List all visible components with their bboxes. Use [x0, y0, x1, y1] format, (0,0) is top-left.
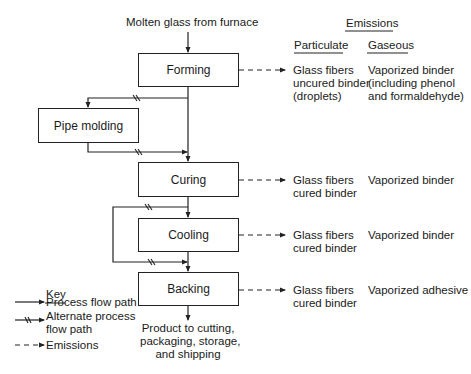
curing-particulate: Glass fibers cured binder — [293, 174, 357, 200]
curing-gaseous: Vaporized binder — [368, 174, 454, 187]
process-backing: Backing — [138, 272, 239, 306]
particulate-header: Particulate — [294, 39, 348, 52]
backing-particulate: Glass fibers cured binder — [293, 284, 357, 310]
process-forming: Forming — [138, 53, 239, 87]
process-label: Backing — [167, 282, 210, 296]
key-item-emissions: Emissions — [46, 339, 98, 352]
forming-gaseous: Vaporized binder (including phenol and f… — [368, 64, 464, 103]
key-item-alternate-flow: Alternate process flow path — [46, 310, 136, 336]
forming-to-pipe-molding-alt-arrow — [88, 98, 188, 107]
key-item-process-flow: Process flow path — [46, 296, 137, 309]
input-label: Molten glass from furnace — [126, 16, 258, 29]
backing-gaseous: Vaporized adhesive — [368, 284, 468, 297]
process-label: Curing — [171, 173, 206, 187]
pipe-molding-to-curing-alt-arrow — [88, 142, 187, 152]
output-label: Product to cutting, packaging, storage, … — [140, 322, 236, 361]
emissions-header: Emissions — [346, 17, 398, 30]
cooling-particulate: Glass fibers cured binder — [293, 229, 357, 255]
process-cooling: Cooling — [138, 218, 239, 252]
process-pipe-molding: Pipe molding — [38, 108, 139, 143]
process-label: Pipe molding — [54, 119, 123, 133]
process-curing: Curing — [138, 162, 239, 197]
gaseous-header: Gaseous — [368, 39, 414, 52]
cooling-gaseous: Vaporized binder — [368, 229, 454, 242]
forming-particulate: Glass fibers uncured binder (droplets) — [293, 64, 370, 103]
process-label: Forming — [166, 63, 210, 77]
process-label: Cooling — [168, 228, 209, 242]
